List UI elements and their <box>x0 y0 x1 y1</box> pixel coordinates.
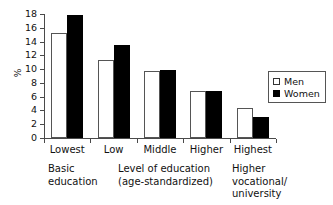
plot-area: 181614121086420 <box>44 14 276 139</box>
x-tick-0 <box>44 139 45 143</box>
y-tick-label-6: 6 <box>0 91 37 102</box>
caption-higher-line3: university <box>232 188 327 201</box>
y-tick-label-14: 14 <box>0 36 37 47</box>
bar-men-low <box>98 60 114 138</box>
legend-item-women: Women <box>273 87 320 99</box>
caption-basic-line1: Basic <box>48 163 118 176</box>
legend-swatch-men-icon <box>273 78 280 85</box>
bar-chart-figure: % 181614121086420 LowestLowMiddleHigherH… <box>0 0 333 205</box>
caption-level-of-education: Level of education (age-standardized) <box>118 163 230 188</box>
caption-level-line1: Level of education <box>118 163 230 176</box>
y-tick-8: 8 <box>40 83 44 84</box>
x-tick-3 <box>183 139 184 143</box>
y-tick-label-0: 0 <box>0 132 37 143</box>
bar-women-higher <box>206 91 222 138</box>
x-tick-5 <box>276 139 277 143</box>
y-tick-label-16: 16 <box>0 22 37 33</box>
bar-men-highest <box>237 108 253 138</box>
y-tick-18: 18 <box>40 14 44 15</box>
y-tick-label-8: 8 <box>0 77 37 88</box>
legend-item-men: Men <box>273 75 320 87</box>
y-tick-label-2: 2 <box>0 118 37 129</box>
y-tick-16: 16 <box>40 28 44 29</box>
caption-higher-line1: Higher <box>232 163 327 176</box>
caption-basic-line2: education <box>48 176 118 189</box>
legend-label-men: Men <box>284 76 304 87</box>
y-axis-line <box>44 14 45 139</box>
caption-higher-line2: vocational/ <box>232 176 327 189</box>
y-tick-label-12: 12 <box>0 49 37 60</box>
y-tick-14: 14 <box>40 42 44 43</box>
bar-women-low <box>114 45 130 138</box>
x-tick-2 <box>137 139 138 143</box>
caption-basic-education: Basic education <box>48 163 118 188</box>
x-tick-1 <box>90 139 91 143</box>
bar-men-higher <box>190 91 206 138</box>
x-tick-4 <box>230 139 231 143</box>
caption-higher-vocational: Higher vocational/ university <box>232 163 327 201</box>
y-tick-4: 4 <box>40 110 44 111</box>
y-tick-12: 12 <box>40 55 44 56</box>
y-tick-10: 10 <box>40 69 44 70</box>
legend-label-women: Women <box>284 88 320 99</box>
y-tick-6: 6 <box>40 97 44 98</box>
bar-women-middle <box>160 70 176 138</box>
y-tick-label-10: 10 <box>0 63 37 74</box>
bar-women-highest <box>253 117 269 138</box>
y-tick-2: 2 <box>40 124 44 125</box>
legend-swatch-women-icon <box>273 90 280 97</box>
y-tick-label-18: 18 <box>0 8 37 19</box>
y-tick-label-4: 4 <box>0 104 37 115</box>
bar-men-middle <box>144 71 160 139</box>
bar-women-lowest <box>67 15 83 138</box>
caption-level-line2: (age-standardized) <box>118 176 230 189</box>
x-category-label-highest: Highest <box>223 144 283 156</box>
x-axis-line <box>44 138 276 139</box>
bar-men-lowest <box>51 33 67 138</box>
legend: Men Women <box>268 71 326 103</box>
